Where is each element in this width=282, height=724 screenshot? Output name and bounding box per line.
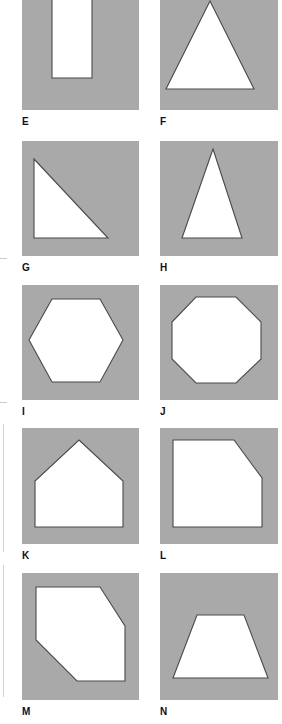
margin-rule-artifact xyxy=(3,565,4,697)
figure-label-g: G xyxy=(22,263,30,273)
figure-panel-k xyxy=(22,428,139,544)
figure-panel-f xyxy=(160,0,278,110)
figure-panel-g xyxy=(22,141,139,256)
shape-rectangle xyxy=(52,0,92,78)
margin-rule-artifact xyxy=(3,424,4,552)
figure-label-i: I xyxy=(22,407,25,417)
figure-sheet: EFGHIJKLMN xyxy=(0,0,282,724)
figure-panel-i xyxy=(22,285,139,400)
figure-panel-j xyxy=(160,285,278,400)
figure-label-l: L xyxy=(160,551,166,561)
figure-label-f: F xyxy=(160,117,166,127)
figure-label-j: J xyxy=(160,407,166,417)
figure-label-k: K xyxy=(22,551,29,561)
figure-label-m: M xyxy=(22,707,31,717)
figure-panel-h xyxy=(160,141,278,256)
figure-label-n: N xyxy=(160,707,167,717)
margin-tick-artifact xyxy=(0,258,7,259)
figure-label-e: E xyxy=(22,117,29,127)
figure-panel-l xyxy=(160,428,278,544)
figure-panel-e xyxy=(22,0,139,110)
shape-octagon xyxy=(172,297,261,383)
figure-panel-n xyxy=(160,573,278,700)
figure-label-h: H xyxy=(160,263,167,273)
margin-tick-artifact xyxy=(0,402,7,403)
figure-panel-m xyxy=(22,573,139,700)
